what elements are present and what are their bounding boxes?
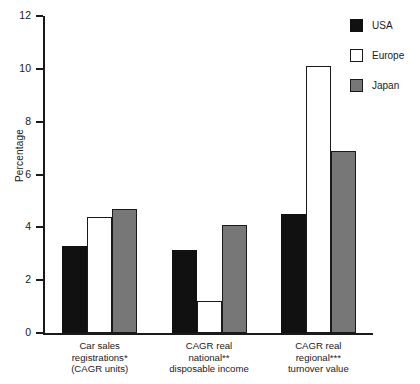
- legend-item-europe[interactable]: Europe: [350, 40, 420, 70]
- y-axis-tick: [36, 15, 43, 17]
- bar-usa-group-3: [281, 214, 306, 333]
- y-axis-tick-label: 4: [0, 221, 31, 232]
- bar-japan-group-3: [331, 151, 356, 333]
- bar-chart: Percentage 024681012 Car salesregistrati…: [0, 0, 420, 384]
- bar-japan-group-1: [112, 209, 137, 333]
- chart-legend: USAEuropeJapan: [350, 10, 420, 100]
- y-axis-tick-label: 6: [0, 169, 31, 180]
- bar-japan-group-2: [222, 225, 247, 333]
- y-axis-tick: [36, 226, 43, 228]
- legend-item-label: Europe: [372, 50, 404, 61]
- bars-layer: [45, 16, 373, 333]
- y-axis-tick-label: 10: [0, 63, 31, 74]
- y-axis-tick-label: 2: [0, 274, 31, 285]
- bar-usa-group-2: [172, 250, 197, 333]
- y-axis-tick: [36, 174, 43, 176]
- legend-swatch-japan-icon: [350, 79, 363, 92]
- bar-europe-group-2: [197, 301, 222, 333]
- bar-europe-group-1: [87, 217, 112, 333]
- x-axis-label-line: regional***: [254, 352, 383, 364]
- legend-item-usa[interactable]: USA: [350, 10, 420, 40]
- y-axis-tick: [36, 121, 43, 123]
- y-axis-tick-label: 8: [0, 116, 31, 127]
- x-axis-line: [43, 333, 373, 335]
- x-axis-label-line: CAGR real: [254, 340, 383, 352]
- y-axis-tick-label: 12: [0, 10, 31, 21]
- x-axis-category-labels: Car salesregistrations*(CAGR units)CAGR …: [45, 340, 373, 384]
- legend-item-japan[interactable]: Japan: [350, 70, 420, 100]
- x-axis-label-group-3: CAGR realregional***turnover value: [254, 340, 383, 375]
- bar-europe-group-3: [306, 66, 331, 333]
- bar-usa-group-1: [62, 246, 87, 333]
- legend-swatch-usa-icon: [350, 19, 363, 32]
- y-axis-tick-label: 0: [0, 327, 31, 338]
- legend-item-label: Japan: [372, 80, 399, 91]
- x-axis-label-line: turnover value: [254, 363, 383, 375]
- y-axis-tick: [36, 279, 43, 281]
- y-axis-tick: [36, 332, 43, 334]
- legend-swatch-europe-icon: [350, 49, 363, 62]
- y-axis-tick: [36, 68, 43, 70]
- legend-item-label: USA: [372, 20, 393, 31]
